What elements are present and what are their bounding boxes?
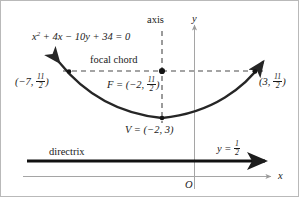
focus-numerator: 11	[147, 76, 156, 84]
right-point-post: )	[282, 76, 286, 87]
left-point-denominator: 2	[36, 81, 45, 90]
left-point-post: )	[45, 76, 49, 87]
left-point-label: (−7, 112)	[15, 73, 49, 90]
right-point-fraction: 112	[273, 73, 282, 90]
right-chord-endpoint	[253, 69, 258, 74]
focus-point	[159, 68, 165, 74]
left-point-numerator: 11	[36, 73, 45, 81]
y-axis-label: y	[192, 14, 197, 25]
directrix-equation-label: y = 12	[217, 140, 240, 157]
right-point-pre: (3,	[259, 76, 273, 87]
directrix-eq-denominator: 2	[234, 148, 240, 157]
right-point-numerator: 11	[273, 73, 282, 81]
focus-pre: F = (−2,	[107, 79, 147, 90]
focus-fraction: 112	[147, 76, 156, 93]
focus-post: )	[156, 79, 160, 90]
focus-label: F = (−2, 112)	[107, 76, 160, 93]
directrix-label: directrix	[49, 147, 85, 158]
left-chord-endpoint	[67, 69, 72, 74]
right-point-denominator: 2	[273, 81, 282, 90]
left-point-fraction: 112	[36, 73, 45, 90]
directrix-eq-fraction: 12	[234, 140, 240, 157]
parabola-figure: x2 + 4x − 10y + 34 = 0 axis y x O focal …	[0, 0, 299, 197]
directrix-eq-pre: y =	[217, 143, 234, 154]
equation-rest: + 4x − 10y + 34 = 0	[40, 31, 130, 42]
equation-label: x2 + 4x − 10y + 34 = 0	[32, 32, 130, 43]
focal-chord-label: focal chord	[90, 55, 138, 66]
right-point-label: (3, 112)	[259, 73, 286, 90]
vertex-point	[160, 116, 165, 121]
focus-denominator: 2	[147, 84, 156, 93]
origin-label: O	[185, 180, 193, 191]
directrix-eq-numerator: 1	[234, 140, 240, 148]
x-axis-label: x	[278, 171, 283, 182]
vertex-label: V = (−2, 3)	[125, 125, 173, 136]
left-point-pre: (−7,	[15, 76, 36, 87]
axis-label: axis	[147, 15, 164, 26]
